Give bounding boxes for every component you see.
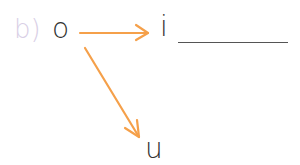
arrow-down-right-icon [85, 48, 139, 137]
arrow-right-icon [80, 25, 148, 40]
arrows [0, 0, 300, 165]
